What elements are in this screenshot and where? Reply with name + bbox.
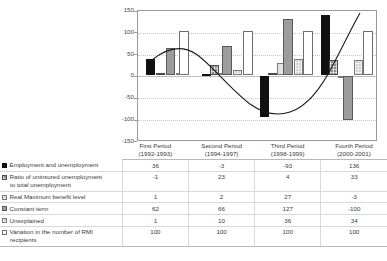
cell-benefit-p1: 1 xyxy=(122,191,188,203)
header-period-2: Second Period (1994-1997) xyxy=(188,141,254,160)
cell-employment-p1: 36 xyxy=(122,160,188,172)
legend-item-ratio: Ratio of uninsured unemployment to total… xyxy=(0,171,122,191)
legend-swatch-mid-icon xyxy=(2,206,7,211)
table-header-row: First Period (1992-1993) Second Period (… xyxy=(0,141,387,160)
y-tick-m100: -100 xyxy=(106,116,134,122)
cell-variation-p3: 100 xyxy=(255,226,321,246)
legend-label-benefit: Real Maximum benefit level xyxy=(10,193,86,200)
bar-variation-p3[interactable] xyxy=(303,31,313,75)
legend-label-constant: Constant term xyxy=(10,205,49,212)
y-tick-0: 0 xyxy=(106,72,134,78)
bar-employment-p1[interactable] xyxy=(146,59,155,75)
cell-ratio-p3: 4 xyxy=(255,171,321,191)
cell-variation-p2: 100 xyxy=(188,226,254,246)
bar-constant-p3[interactable] xyxy=(283,19,293,74)
cell-variation-p4: 100 xyxy=(321,226,387,246)
header-period-1-name: First Period xyxy=(140,142,172,149)
plot-area xyxy=(137,10,377,141)
cell-employment-p3: -93 xyxy=(255,160,321,172)
chart-region: 150 100 50 0 -50 -100 -150 xyxy=(0,0,387,152)
legend-label-variation-line2: recipients xyxy=(2,236,122,244)
header-period-1-years: (1992-1993) xyxy=(139,150,173,157)
header-period-4: Fourth Period (2000-2001) xyxy=(321,141,387,160)
legend-swatch-lightpattern-icon xyxy=(2,218,7,223)
legend-swatch-white-icon xyxy=(2,230,7,235)
header-period-3: Third Period (1998-1999) xyxy=(255,141,321,160)
legend-swatch-black-icon xyxy=(2,163,7,168)
y-tick-150: 150 xyxy=(106,7,134,13)
bar-unexplained-p4[interactable] xyxy=(354,60,363,75)
table-row: Employment and unemployment 36 -3 -93 13… xyxy=(0,160,387,172)
legend-item-variation: Variation in the number of RMI recipient… xyxy=(0,226,122,246)
legend-label-ratio-line1: Ratio of uninsured unemployment xyxy=(10,173,103,180)
header-blank xyxy=(0,141,122,160)
cell-benefit-p4: -3 xyxy=(321,191,387,203)
table-row: Unexplained 1 10 36 34 xyxy=(0,215,387,227)
cell-employment-p2: -3 xyxy=(188,160,254,172)
y-tick-50: 50 xyxy=(106,51,134,57)
bar-ratio-p3[interactable] xyxy=(268,73,277,75)
bar-unexplained-p2[interactable] xyxy=(233,70,242,74)
legend-item-employment: Employment and unemployment xyxy=(0,160,122,172)
cell-constant-p1: 62 xyxy=(122,203,188,215)
cell-benefit-p2: 2 xyxy=(188,191,254,203)
cell-ratio-p1: -1 xyxy=(122,171,188,191)
header-period-2-years: (1994-1997) xyxy=(205,150,239,157)
header-period-2-name: Second Period xyxy=(201,142,242,149)
cell-unexplained-p3: 36 xyxy=(255,215,321,227)
bar-variation-p1[interactable] xyxy=(179,31,189,75)
cell-constant-p4: -100 xyxy=(321,203,387,215)
table-row: Real Maximum benefit level 1 2 27 -3 xyxy=(0,191,387,203)
bar-constant-p4[interactable] xyxy=(343,76,353,120)
bar-constant-p2[interactable] xyxy=(222,46,232,75)
chart-page: 150 100 50 0 -50 -100 -150 xyxy=(0,0,387,261)
cell-unexplained-p4: 34 xyxy=(321,215,387,227)
header-period-3-years: (1998-1999) xyxy=(271,150,305,157)
cell-constant-p2: 66 xyxy=(188,203,254,215)
data-table: First Period (1992-1993) Second Period (… xyxy=(0,141,387,247)
y-axis: 150 100 50 0 -50 -100 -150 xyxy=(103,10,134,141)
legend-swatch-light-icon xyxy=(2,195,7,200)
header-period-4-name: Fourth Period xyxy=(335,142,373,149)
legend-item-constant: Constant term xyxy=(0,203,122,215)
cell-employment-p4: 136 xyxy=(321,160,387,172)
header-period-3-name: Third Period xyxy=(271,142,305,149)
bar-group-period-3 xyxy=(257,11,317,140)
bar-group-period-1 xyxy=(138,11,198,140)
table-row: Ratio of uninsured unemployment to total… xyxy=(0,171,387,191)
cell-variation-p1: 100 xyxy=(122,226,188,246)
legend-swatch-grid-icon xyxy=(2,175,7,180)
cell-benefit-p3: 27 xyxy=(255,191,321,203)
bar-variation-p4[interactable] xyxy=(363,31,373,75)
bar-unexplained-p3[interactable] xyxy=(294,59,303,75)
cell-ratio-p2: 23 xyxy=(188,171,254,191)
cell-unexplained-p1: 1 xyxy=(122,215,188,227)
legend-item-benefit: Real Maximum benefit level xyxy=(0,191,122,203)
table-row: Variation in the number of RMI recipient… xyxy=(0,226,387,246)
legend-label-ratio-line2: to total unemployment xyxy=(2,181,122,189)
bar-group-period-4 xyxy=(317,11,377,140)
y-tick-m50: -50 xyxy=(106,94,134,100)
legend-label-employment: Employment and unemployment xyxy=(10,161,99,168)
cell-ratio-p4: 33 xyxy=(321,171,387,191)
bar-employment-p3[interactable] xyxy=(260,76,269,117)
bar-ratio-p4[interactable] xyxy=(329,60,338,74)
bar-variation-p2[interactable] xyxy=(243,31,253,75)
cell-unexplained-p2: 10 xyxy=(188,215,254,227)
y-tick-100: 100 xyxy=(106,29,134,35)
legend-label-variation-line1: Variation in the number of RMI xyxy=(10,228,93,235)
table-row: Constant term 62 66 127 -100 xyxy=(0,203,387,215)
legend-label-unexplained: Unexplained xyxy=(10,217,44,224)
bar-constant-p1[interactable] xyxy=(166,48,175,75)
header-period-1: First Period (1992-1993) xyxy=(122,141,188,160)
cell-constant-p3: 127 xyxy=(255,203,321,215)
bar-ratio-p1[interactable] xyxy=(156,73,165,75)
bar-group-period-2 xyxy=(198,11,258,140)
header-period-4-years: (2000-2001) xyxy=(337,150,371,157)
legend-item-unexplained: Unexplained xyxy=(0,215,122,227)
